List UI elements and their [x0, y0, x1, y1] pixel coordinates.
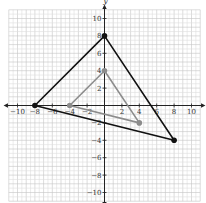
- y-tick-label: 2: [97, 85, 101, 93]
- coordinate-plane: −10−8−6−4−2246810108642−2−4−6−8−10xy: [0, 0, 206, 203]
- y-axis-arrow-up-icon: [102, 5, 106, 9]
- y-axis-arrow-down-icon: [102, 202, 106, 203]
- x-tick-label: 2: [120, 108, 124, 116]
- y-tick-label: −6: [91, 154, 102, 162]
- y-tick-label: −4: [91, 137, 102, 145]
- vertex-point: [67, 103, 73, 109]
- x-tick-label: −10: [10, 108, 25, 116]
- y-axis-label: y: [102, 0, 108, 5]
- vertex-point: [171, 138, 177, 144]
- x-tick-label: 4: [137, 108, 142, 116]
- vertex-point: [137, 120, 143, 126]
- y-tick-label: 6: [97, 50, 102, 58]
- x-tick-label: 10: [187, 108, 196, 116]
- vertex-point: [102, 33, 108, 39]
- x-axis-arrow-left-icon: [4, 103, 8, 107]
- vertex-point: [102, 68, 108, 74]
- x-tick-label: −8: [30, 108, 40, 116]
- y-tick-label: −10: [87, 189, 102, 197]
- y-tick-label: 10: [93, 15, 102, 23]
- x-tick-label: 8: [172, 108, 176, 116]
- x-axis-arrow-right-icon: [201, 103, 205, 107]
- vertex-point: [32, 103, 38, 109]
- y-tick-label: −8: [91, 172, 101, 180]
